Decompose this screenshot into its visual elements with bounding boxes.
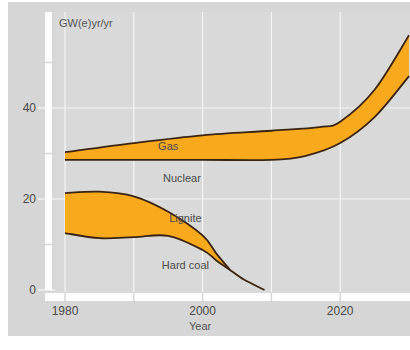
- series-label-lignite: Lignite: [169, 212, 201, 224]
- y-axis-title: GW(e)yr/yr: [59, 17, 113, 29]
- region-label-hard-coal: Hard coal: [162, 259, 209, 271]
- y-tick-label: 0: [29, 283, 36, 297]
- x-tick-label: 1980: [52, 304, 79, 318]
- x-tick-label: 2020: [327, 304, 354, 318]
- chart: 02040 198020002020 GasLigniteNuclearHard…: [0, 0, 410, 350]
- x-tick-label: 2000: [189, 304, 216, 318]
- y-tick-label: 20: [23, 192, 37, 206]
- series-label-gas: Gas: [158, 140, 179, 152]
- y-tick-label: 40: [23, 101, 37, 115]
- x-axis-bar: [45, 293, 410, 301]
- x-axis-title: Year: [189, 320, 212, 332]
- y-axis-bar: [45, 12, 52, 290]
- region-label-nuclear: Nuclear: [163, 172, 201, 184]
